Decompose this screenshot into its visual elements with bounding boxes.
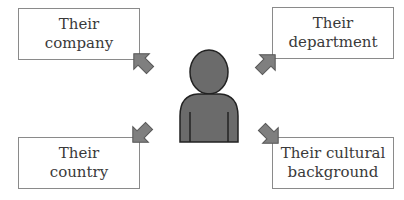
- arrow-down-left-icon: [125, 118, 157, 150]
- arrow-up-right-icon: [251, 47, 283, 79]
- person-icon: [180, 50, 238, 142]
- arrow-down-right-icon: [254, 119, 286, 151]
- arrow-up-left-icon: [126, 46, 158, 78]
- diagram-graphics: [0, 0, 404, 200]
